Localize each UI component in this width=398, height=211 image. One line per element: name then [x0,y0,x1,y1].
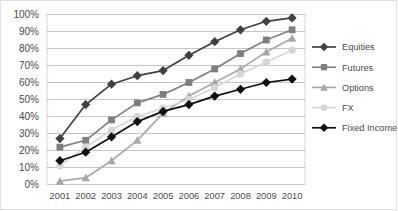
legend-label: Equities [342,42,375,52]
x-axis-category-label: 2007 [204,191,225,201]
diamond-marker [236,25,245,34]
series-line [60,30,292,147]
square-marker [321,64,327,70]
x-axis-category-label: 2008 [230,191,251,201]
y-axis-tick-label: 10% [19,162,39,173]
diamond-marker [210,37,219,46]
electronic-trading-adoption-line-chart: 0%10%20%30%40%50%60%70%80%90%100% 200120… [1,1,398,211]
series-futures [57,26,296,150]
y-axis-tick-label: 40% [19,111,39,122]
legend-label: FX [342,103,354,113]
y-axis-tick-labels: 0%10%20%30%40%50%60%70%80%90%100% [13,9,39,190]
series-line [60,79,292,161]
diamond-marker [262,78,271,87]
x-axis-category-labels: 2001200220032004200520062007200820092010 [50,191,303,201]
series-line [60,18,292,139]
y-axis-tick-label: 0% [25,179,40,190]
x-axis-category-label: 2006 [179,191,200,201]
chart-legend: EquitiesFuturesOptionsFXFixed Income [312,42,397,133]
square-marker [263,37,270,44]
legend-item-fx[interactable]: FX [312,103,354,113]
y-axis-tick-label: 70% [19,60,39,71]
legend-label: Options [342,83,374,93]
y-axis-tick-label: 30% [19,128,39,139]
circle-marker [321,104,328,111]
legend-item-equities[interactable]: Equities [312,42,375,52]
diamond-marker [184,51,193,60]
y-axis-tick-label: 80% [19,43,39,54]
legend-item-futures[interactable]: Futures [312,63,374,73]
diamond-marker [159,66,168,75]
diamond-marker [262,17,271,26]
x-axis-category-label: 2005 [153,191,174,201]
square-marker [211,66,218,73]
x-axis-category-label: 2001 [50,191,71,201]
y-axis-tick-label: 100% [13,9,39,20]
x-axis-category-label: 2002 [75,191,96,201]
square-marker [82,137,89,144]
series-equities [55,13,296,143]
series-layer [55,13,296,184]
square-marker [186,79,193,86]
circle-marker [211,84,218,91]
square-marker [237,50,244,57]
square-marker [57,144,64,151]
legend-item-options[interactable]: Options [312,83,374,93]
square-marker [160,91,167,98]
diamond-marker [320,124,328,132]
x-axis-category-label: 2010 [282,191,303,201]
square-marker [289,26,296,33]
y-axis-tick-label: 50% [19,94,39,105]
diamond-marker [133,71,142,80]
series-line [60,38,292,181]
x-axis-category-label: 2004 [127,191,148,201]
x-axis-category-label: 2009 [256,191,277,201]
circle-marker [288,47,295,54]
legend-label: Fixed Income [342,123,397,133]
legend-label: Futures [342,63,374,73]
legend-item-fixed-income[interactable]: Fixed Income [312,123,397,133]
y-axis-tick-label: 60% [19,77,39,88]
triangle-marker [288,34,296,42]
series-options [56,34,297,185]
circle-marker [237,70,244,77]
diamond-marker [320,43,328,51]
square-marker [108,117,115,124]
y-axis-tick-label: 90% [19,26,39,37]
square-marker [134,100,141,107]
circle-marker [263,58,270,65]
x-axis-category-label: 2003 [101,191,122,201]
y-axis-tick-label: 20% [19,145,39,156]
diamond-marker [236,85,245,94]
